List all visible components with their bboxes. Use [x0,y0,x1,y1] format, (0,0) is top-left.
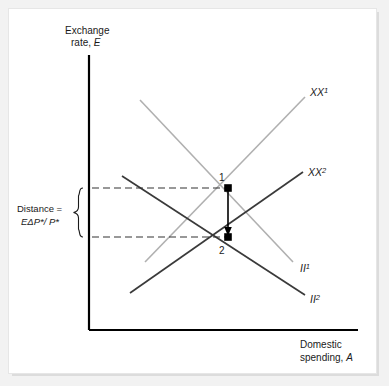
equilibrium-point-2-label: 2 [219,245,225,256]
curve-label-xx2: XX2 [307,166,327,179]
y-axis-label-text: rate, [71,37,94,48]
curve-label-ii2-sup: 2 [315,293,321,302]
curve-label-xx2-sup: 2 [321,166,327,175]
y-axis-label-line2: rate, E [71,37,101,48]
y-axis-symbol: E [94,37,101,48]
distance-label-line2: EΔP*/ P* [21,216,59,227]
distance-label-delta: Δ [26,216,33,227]
distance-brace [74,188,84,237]
curve-label-ii2: II2 [310,293,321,306]
economics-diagram: Exchange rate, E Domestic spending, A XX… [0,0,389,386]
distance-label-p: P*/ P* [34,216,60,227]
x-axis-symbol: A [345,352,353,363]
curve-xx2 [130,172,303,293]
curve-label-xx2-base: XX [307,166,323,178]
curve-label-xx1-base: XX [309,86,325,98]
distance-label-line1: Distance = [17,203,63,214]
x-axis-label-text: spending, [300,352,346,363]
y-axis-label-line1: Exchange [65,25,110,36]
equilibrium-point-2-marker [224,233,232,241]
equilibrium-point-1-label: 1 [219,172,225,183]
curve-label-xx1-sup: 1 [324,86,328,95]
curve-label-ii1: II1 [300,262,310,275]
figure-root: Exchange rate, E Domestic spending, A XX… [0,0,389,386]
curve-label-xx1: XX1 [309,86,328,99]
x-axis-label-line1: Domestic [300,339,342,350]
curve-label-ii1-sup: 1 [306,262,310,271]
curve-ii2 [122,176,305,295]
equilibrium-point-1-marker [224,184,232,192]
x-axis-label-line2: spending, A [300,352,353,363]
